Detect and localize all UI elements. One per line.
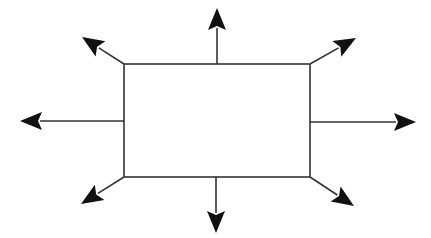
arrowhead-icon	[20, 112, 42, 130]
arrow-top	[208, 8, 226, 64]
arrow-bottom-right	[310, 177, 354, 206]
arrow-left	[20, 112, 124, 130]
arrow-shaft	[310, 177, 337, 195]
arrowhead-icon	[81, 185, 104, 204]
arrowhead-icon	[394, 113, 416, 131]
arrow-bottom	[207, 177, 225, 233]
arrow-bottom-left	[81, 177, 124, 204]
expansion-diagram	[0, 0, 431, 238]
arrowhead-icon	[332, 38, 356, 57]
arrowhead-icon	[82, 37, 105, 57]
arrow-shaft	[98, 177, 124, 193]
central-rectangle	[124, 64, 310, 177]
arrow-top-right	[310, 38, 356, 64]
arrow-shaft	[310, 48, 339, 64]
arrows-group	[20, 8, 416, 233]
arrowhead-icon	[207, 211, 225, 233]
arrow-shaft	[99, 48, 124, 64]
arrowhead-icon	[208, 8, 226, 30]
arrow-top-left	[82, 37, 124, 64]
arrowhead-icon	[331, 186, 354, 206]
arrow-right	[310, 113, 416, 131]
